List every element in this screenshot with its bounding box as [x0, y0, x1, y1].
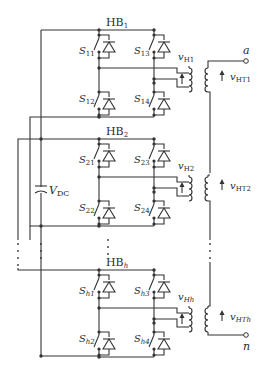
circuit-diagram: VDC HB1 HB2 HBh S11 S12 S13 S14 S21 S22 …	[0, 0, 265, 373]
s24-label: S24	[134, 202, 150, 215]
s13-label: S13	[134, 45, 150, 58]
vdc-label: VDC	[49, 184, 70, 198]
vht2-label: vHT2	[230, 180, 251, 193]
hb1-label: HB1	[106, 16, 128, 30]
hb2-label: HB2	[106, 125, 128, 139]
terminal-a-label: a	[243, 44, 250, 57]
s23-label: S23	[134, 154, 150, 167]
vh1-label: vH1	[178, 51, 194, 64]
s22-label: S22	[79, 202, 95, 215]
sh2-label: Sh2	[79, 333, 95, 346]
sh1-label: Sh1	[79, 285, 95, 298]
vh2-label: vH2	[178, 160, 194, 173]
h-bridge-1	[94, 28, 225, 118]
hbh-label: HBh	[106, 256, 128, 270]
vhh-label: vHh	[178, 291, 194, 304]
h-bridge-2	[94, 137, 225, 227]
sh4-label: Sh4	[134, 333, 150, 346]
vht1-label: vHT1	[230, 71, 251, 84]
h-bridge-h	[94, 268, 225, 358]
vhth-label: vHTh	[230, 311, 251, 324]
terminal-n-label: n	[243, 340, 250, 353]
s11-label: S11	[79, 45, 95, 58]
s12-label: S12	[79, 93, 95, 106]
s14-label: S14	[134, 93, 150, 106]
sh3-label: Sh3	[134, 285, 150, 298]
s21-label: S21	[79, 154, 95, 167]
